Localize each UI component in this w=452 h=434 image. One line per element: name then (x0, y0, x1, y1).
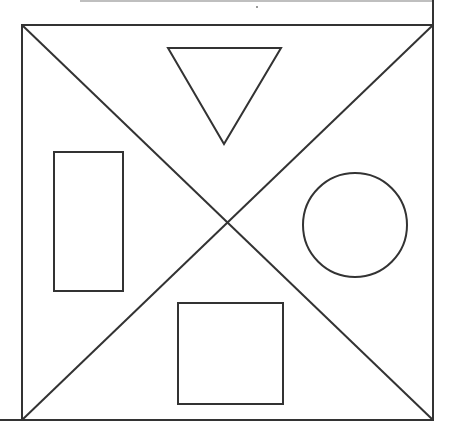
triangle-shape (168, 48, 281, 144)
circle-shape (303, 173, 407, 277)
rectangle-shape (54, 152, 123, 291)
square-shape (178, 303, 283, 404)
diagram-canvas (0, 0, 452, 434)
stray-dot (256, 6, 258, 8)
